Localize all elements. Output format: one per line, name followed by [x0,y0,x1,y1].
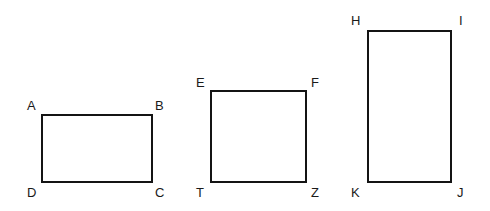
vertex-label-t: T [196,186,204,199]
vertex-label-b: B [155,99,164,112]
rectangle-hijk [367,30,452,183]
vertex-label-i: I [459,14,463,27]
vertex-label-c: C [155,186,164,199]
vertex-label-e: E [196,76,205,89]
vertex-label-z: Z [311,186,319,199]
vertex-label-f: F [311,76,319,89]
rectangle-abcd [41,114,153,183]
rectangle-eftz [210,90,307,183]
vertex-label-h: H [351,14,360,27]
figure-canvas: A B C D E F Z T H I J K [0,0,490,211]
vertex-label-d: D [27,186,36,199]
vertex-label-j: J [457,186,464,199]
vertex-label-k: K [351,186,360,199]
vertex-label-a: A [27,99,36,112]
